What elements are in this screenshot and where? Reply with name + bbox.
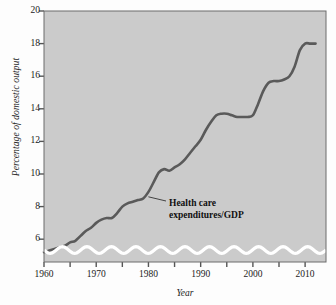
x-tick-label-2010: 2010 — [285, 270, 325, 280]
series-annotation-line1: Health care — [169, 198, 244, 210]
y-tick-label-14: 14 — [14, 104, 40, 114]
chart-figure: Percentage of domestic output Year 68101… — [0, 0, 336, 305]
y-tick-label-16: 16 — [14, 71, 40, 81]
x-tick-label-2000: 2000 — [233, 270, 273, 280]
x-tick-label-1960: 1960 — [24, 270, 64, 280]
x-tick-label-1990: 1990 — [181, 270, 221, 280]
line-chart-canvas — [0, 0, 336, 305]
plot-background — [44, 11, 326, 262]
x-tick-label-1970: 1970 — [76, 270, 116, 280]
y-tick-label-20: 20 — [14, 6, 40, 16]
y-tick-label-12: 12 — [14, 136, 40, 146]
x-axis-title: Year — [44, 288, 326, 298]
series-annotation: Health care expenditures/GDP — [169, 198, 244, 221]
series-annotation-line2: expenditures/GDP — [169, 210, 244, 222]
x-tick-label-1980: 1980 — [128, 270, 168, 280]
y-tick-label-6: 6 — [14, 234, 40, 244]
y-tick-label-18: 18 — [14, 39, 40, 49]
y-tick-label-8: 8 — [14, 202, 40, 212]
y-tick-label-10: 10 — [14, 169, 40, 179]
